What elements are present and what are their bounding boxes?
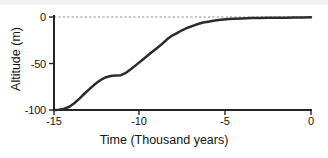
x-tick-label-neg10: -10	[119, 115, 159, 127]
x-tick-label-0: 0	[291, 115, 328, 127]
x-tick-label-neg5: -5	[205, 115, 245, 127]
y-tick-label-0: 0	[20, 11, 46, 23]
altitude-curve	[54, 17, 311, 110]
y-axis-title: Altitude (m)	[9, 11, 23, 107]
x-tick-label-neg15: -15	[34, 115, 74, 127]
chart-figure: 0 -50 -100 -15 -10 -5 0 Altitude (m) Tim…	[0, 0, 328, 158]
x-axis-title: Time (Thousand years)	[0, 133, 328, 147]
